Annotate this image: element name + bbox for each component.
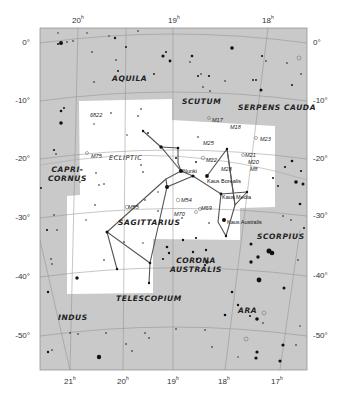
dso-label-m21: M21 (245, 152, 256, 158)
dec-label-left-20: -20° (15, 154, 30, 163)
dso-label-m25: M25 (203, 140, 214, 146)
dso-label-m20: M20 (248, 159, 259, 165)
dec-label-right-30: -30° (313, 211, 328, 220)
constellation-serpens-cauda: SERPENS CAUDA (238, 103, 316, 112)
dec-label-right-40: -40° (313, 271, 328, 280)
dso-label-m55: M55 (128, 204, 139, 210)
ra-label-bottom-18h: 18h (218, 375, 230, 386)
dec-label-left-10: -10° (15, 96, 30, 105)
constellation-sagittarius: SAGITTARIUS (118, 218, 180, 227)
star-label-kaus-media: Kaus Media (222, 194, 251, 200)
constellation-ara: ARA (238, 306, 257, 315)
ecliptic-label: ECLIPTIC (109, 154, 142, 163)
dec-label-left-0: 0° (22, 38, 30, 47)
constellation-capricornus: CAPRI- CORNUS (48, 165, 87, 183)
dso-label-m18: M18 (230, 124, 241, 130)
dso-label-m75: M75 (91, 153, 102, 159)
ra-label-bottom-17h: 17h (271, 375, 283, 386)
ra-label-top-18h: 18h (262, 14, 274, 25)
constellation-scutum: SCUTUM (182, 97, 221, 106)
star-label-kaus-australis: Kaus Australis (227, 219, 262, 225)
ra-label-bottom-20h: 20h (117, 375, 129, 386)
constellation-corona-australis: CORONA AUSTRALIS (170, 256, 222, 274)
ra-label-top-19h: 19h (168, 14, 180, 25)
ra-label-bottom-19h: 19h (167, 375, 179, 386)
constellation-indus: INDUS (58, 313, 88, 322)
dso-label-m17: M17 (212, 117, 223, 123)
dso-label-ngc6822: 6822 (90, 112, 102, 118)
dec-label-right-20: -20° (313, 154, 328, 163)
ra-label-top-20h: 20h (72, 14, 84, 25)
dec-label-left-50: -50° (15, 331, 30, 340)
ra-label-bottom-21h: 21h (64, 375, 76, 386)
dso-label-m8: M8 (250, 166, 258, 172)
constellation-telescopium: TELESCOPIUM (116, 294, 182, 303)
dec-label-left-40: -40° (15, 272, 30, 281)
dso-label-m28: M28 (221, 166, 232, 172)
dso-label-m69: M69 (201, 205, 212, 211)
dec-label-right-50: -50° (313, 331, 328, 340)
dso-label-m23: M23 (260, 136, 271, 142)
dso-label-m22: M22 (206, 157, 217, 163)
dso-label-m70: M70 (174, 211, 185, 217)
dso-label-m54: M54 (181, 197, 192, 203)
constellation-aquila: AQUILA (112, 74, 147, 83)
star-label-kaus-borealis: Kaus Borealis (207, 178, 241, 184)
star-label-nunki: Nunki (183, 168, 197, 174)
star-chart (0, 0, 344, 400)
dec-label-right-0: 0° (313, 38, 321, 47)
dec-label-left-30: -30° (15, 213, 30, 222)
constellation-scorpius: SCORPIUS (257, 232, 305, 241)
